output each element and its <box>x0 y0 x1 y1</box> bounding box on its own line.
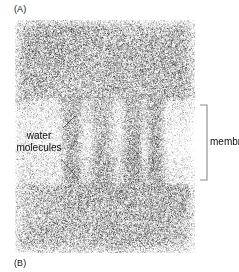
water-molecules-label-line1: water <box>8 130 70 142</box>
membrane-label: membrane <box>210 136 239 148</box>
water-molecules-label-line2: molecules <box>8 142 70 154</box>
water-molecules-label: water molecules <box>8 130 70 154</box>
panel-a-label: (A) <box>14 4 26 14</box>
panel-b-label: (B) <box>14 258 26 268</box>
membrane-bracket <box>200 105 207 180</box>
